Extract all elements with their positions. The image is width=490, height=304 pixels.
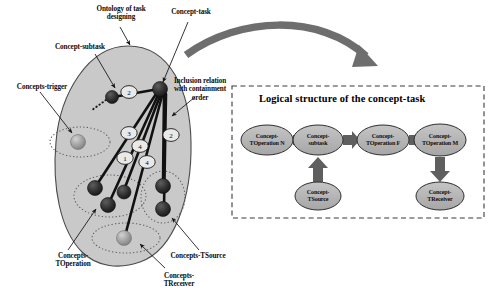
ontology-node-trigger-a	[71, 135, 86, 150]
panel-title: Logical structure of the concept-task	[259, 93, 425, 104]
svg-text:TReceiver: TReceiver	[427, 196, 453, 202]
order-badge-4: 1	[117, 152, 133, 165]
order-badge-3: 4	[132, 140, 148, 153]
svg-text:1: 1	[123, 155, 127, 163]
flow-node-tsource: Concept-TSource	[295, 182, 341, 210]
annotation-inclusion: Inclusion relation with containment orde…	[168, 77, 232, 102]
annotation-concepts-treceiver: Concepts- TReceiver	[148, 272, 210, 289]
ontology-node-tsource-a	[156, 179, 171, 194]
flow-node-op-f: Concept-TOperation F	[357, 125, 409, 155]
ontology-node-concept-subtask	[106, 91, 119, 104]
order-badge-0: 2	[121, 86, 137, 99]
svg-text:4: 4	[145, 159, 149, 167]
ontology-node-concept-task	[153, 82, 168, 97]
flow-node-treceiver: Concept-TReceiver	[416, 182, 464, 210]
svg-text:Concept-: Concept-	[429, 133, 452, 139]
svg-text:2: 2	[169, 132, 173, 140]
svg-text:Concept-: Concept-	[307, 189, 330, 195]
figure-canvas: 232414 Concept	[0, 0, 490, 304]
svg-text:4: 4	[138, 143, 142, 151]
expansion-arrow	[186, 25, 378, 67]
svg-text:Concept-: Concept-	[429, 189, 452, 195]
svg-text:TOperation F: TOperation F	[366, 140, 401, 146]
svg-text:TSource: TSource	[308, 196, 329, 202]
annotation-concept-task: Concept-task	[160, 8, 222, 16]
svg-text:Concept-: Concept-	[372, 133, 395, 139]
svg-text:2: 2	[127, 89, 131, 97]
svg-text:subtask: subtask	[309, 140, 329, 146]
annotation-ontology: Ontology of task designing	[78, 5, 164, 22]
svg-text:3: 3	[127, 130, 131, 138]
order-badge-1: 3	[121, 127, 137, 140]
annotation-concepts-toperation: Concepts- TOperation	[42, 252, 104, 269]
order-badge-5: 4	[139, 156, 155, 169]
annotation-concepts-tsource: Concepts-TSource	[160, 252, 236, 260]
svg-text:Concept-: Concept-	[307, 133, 330, 139]
annotation-concepts-trigger: Concepts-trigger	[6, 83, 78, 91]
svg-text:TOperation M: TOperation M	[422, 140, 459, 146]
annotation-concept-subtask: Concept-subtask	[42, 43, 118, 51]
ontology-node-toperation-a	[88, 181, 103, 196]
svg-text:Concept-: Concept-	[256, 133, 279, 139]
svg-text:TOperation N: TOperation N	[250, 140, 286, 146]
ontology-node-toperation-b	[101, 198, 116, 213]
ontology-node-toperation-c	[117, 185, 131, 199]
order-badge-2: 2	[163, 129, 179, 142]
ontology-node-tsource-b	[156, 202, 171, 217]
ontology-node-treceiver-a	[117, 231, 132, 246]
flow-node-op-m: Concept-TOperation M	[414, 124, 466, 156]
flow-node-subtask: Concept-subtask	[293, 125, 343, 155]
flow-node-op-n: Concept-TOperation N	[241, 125, 293, 155]
